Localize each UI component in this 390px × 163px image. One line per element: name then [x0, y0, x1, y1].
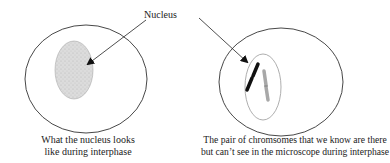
right-caption-line2: but can’t see in the microscope during i…	[200, 146, 390, 158]
left-caption-line1: What the nucleus looks	[18, 134, 158, 146]
chromosome-light-icon	[264, 71, 268, 100]
left-nucleus	[55, 41, 93, 99]
right-cell	[219, 28, 343, 136]
left-cell	[25, 25, 147, 133]
right-caption: The pair of chromsomes that we know are …	[200, 134, 390, 158]
nucleus-label: Nucleus	[144, 9, 177, 21]
arrow-to-left-nucleus	[88, 20, 146, 64]
right-nucleus-outline	[245, 54, 281, 120]
arrow-to-right-nucleus	[199, 18, 247, 62]
right-caption-line1: The pair of chromsomes that we know are …	[200, 134, 390, 146]
left-caption: What the nucleus looks like during inter…	[18, 134, 158, 158]
left-caption-line2: like during interphase	[18, 146, 158, 158]
